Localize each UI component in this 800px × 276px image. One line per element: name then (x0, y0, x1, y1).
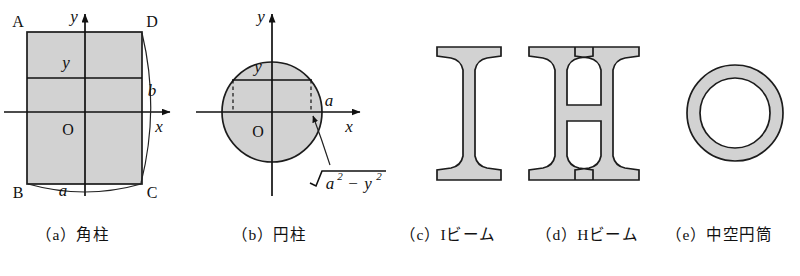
radius-label-b: a (325, 91, 334, 110)
chord-base-2: y (362, 174, 372, 193)
origin-label-b: O (252, 123, 264, 140)
panel-e-hollow-cylinder (687, 65, 783, 161)
corner-label-a-bottomleft: B (13, 184, 24, 201)
chord-exponent-2: 2 (376, 170, 382, 182)
annulus-inner-circle (700, 78, 770, 148)
corner-label-a-topleft: A (12, 13, 24, 30)
chord-operator: − (348, 174, 358, 193)
caption-panel-e: （e）中空円筒 (666, 222, 772, 244)
origin-label-a: O (62, 121, 74, 138)
caption-panel-c: （c）Iビーム (400, 222, 496, 244)
panel-d-h-beam (529, 47, 639, 180)
chord-expression-b: a 2 − y 2 (310, 170, 386, 193)
annulus-outer-circle (687, 65, 783, 161)
strip-label-a: y (60, 53, 70, 72)
x-axis-label-b: x (344, 117, 353, 136)
caption-panel-d: （d）Hビーム (536, 222, 638, 244)
dimension-label-height-b: b (148, 81, 157, 100)
caption-panel-a: （a）角柱 (36, 222, 109, 244)
panel-b-circular-cylinder: x y O y a a 2 − y 2 (196, 7, 386, 196)
x-axis-label-a: x (154, 117, 163, 136)
panel-a-rectangular-column: x y O y A D B C a b (4, 7, 170, 201)
i-beam-profile (437, 47, 501, 180)
corner-label-a-bottomright: C (147, 184, 158, 201)
caption-panel-b: （b）円柱 (232, 222, 306, 244)
corner-label-a-topright: D (146, 13, 158, 30)
chord-exponent-1: 2 (337, 170, 343, 182)
chord-base-1: a (326, 174, 335, 193)
h-beam-profile (529, 47, 639, 180)
panel-c-i-beam (437, 47, 501, 180)
y-axis-label-a: y (68, 7, 78, 26)
y-axis-label-b: y (255, 7, 265, 26)
dimension-label-width-a: a (59, 181, 68, 200)
caption-row: （a）角柱 （b）円柱 （c）Iビーム （d）Hビーム （e）中空円筒 (0, 218, 800, 258)
strip-label-b: y (252, 57, 262, 76)
figure-sheet: x y O y A D B C a b (0, 0, 800, 276)
